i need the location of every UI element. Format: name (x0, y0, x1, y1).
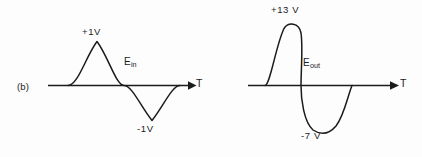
input-waveform-panel (48, 42, 197, 121)
input-signal-label-base: E (124, 56, 131, 67)
output-signal-label-subscript: out (310, 61, 320, 70)
input-sine-curve (68, 42, 180, 121)
input-signal-label: Ein (124, 57, 137, 67)
output-clipped-curve (265, 24, 352, 133)
output-time-axis-label: T (400, 78, 407, 89)
input-trough-voltage-label: -1V (137, 124, 154, 134)
panel-label-b: (b) (17, 82, 29, 92)
output-signal-label: Eout (303, 58, 320, 68)
output-trough-voltage-label: -7 V (301, 131, 321, 141)
output-axis-arrowhead (390, 81, 399, 90)
input-time-axis-label: T (196, 78, 203, 89)
input-peak-voltage-label: +1V (82, 27, 101, 37)
input-signal-label-subscript: in (131, 60, 137, 69)
waveform-diagram-svg (0, 0, 422, 157)
waveform-figure: (b) +1V -1V Ein T +13 V -7 V Eout T (0, 0, 422, 157)
output-peak-voltage-label: +13 V (271, 5, 299, 15)
output-signal-label-base: E (303, 57, 310, 68)
output-waveform-panel (248, 24, 399, 133)
